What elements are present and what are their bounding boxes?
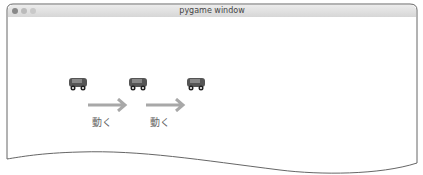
- window-title: pygame window: [8, 5, 416, 17]
- arrow-right-icon: [88, 98, 132, 112]
- car-icon: [186, 74, 206, 91]
- move-label: 動く: [92, 114, 112, 129]
- arrow-right-icon: [146, 98, 190, 112]
- car-icon: [68, 74, 88, 91]
- title-bar[interactable]: pygame window: [8, 5, 416, 17]
- car-icon: [128, 74, 148, 91]
- window-frame: [0, 0, 423, 175]
- move-label: 動く: [150, 114, 170, 129]
